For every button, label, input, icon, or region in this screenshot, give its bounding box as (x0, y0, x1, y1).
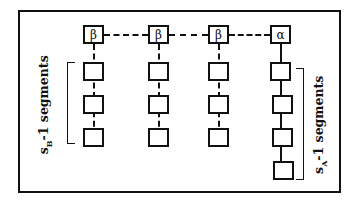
alpha-segment-2 (272, 95, 293, 114)
top-dashed-link-3 (229, 34, 270, 36)
alpha-label: α (276, 29, 284, 41)
top-box-beta-1: β (83, 25, 104, 44)
beta-label: β (90, 29, 97, 41)
beta-col3-segment-3 (208, 128, 229, 147)
alpha-segment-1 (270, 62, 291, 81)
top-dashed-link-1 (104, 34, 148, 36)
beta-col1-segment-2 (83, 95, 104, 114)
beta-col2-segment-3 (148, 128, 169, 147)
top-box-beta-2: β (148, 25, 169, 44)
top-box-beta-3: β (208, 25, 229, 44)
left-segments-label: sB-1 segments (36, 55, 54, 155)
beta-col2-segment-1 (148, 62, 169, 81)
beta-col3-segment-2 (208, 95, 229, 114)
right-segments-label: sA-1 segments (311, 70, 329, 180)
left-bracket (67, 62, 75, 144)
alpha-segment-4 (273, 161, 294, 180)
top-box-alpha: α (270, 25, 291, 44)
beta-col3-segment-1 (208, 62, 229, 81)
alpha-segment-3 (272, 128, 293, 147)
beta-label: β (215, 29, 222, 41)
beta-col2-segment-2 (148, 95, 169, 114)
right-bracket (296, 68, 304, 180)
beta-col1-segment-3 (83, 128, 104, 147)
beta-label: β (155, 29, 162, 41)
top-dashed-link-2 (169, 34, 208, 36)
beta-col1-segment-1 (83, 62, 104, 81)
